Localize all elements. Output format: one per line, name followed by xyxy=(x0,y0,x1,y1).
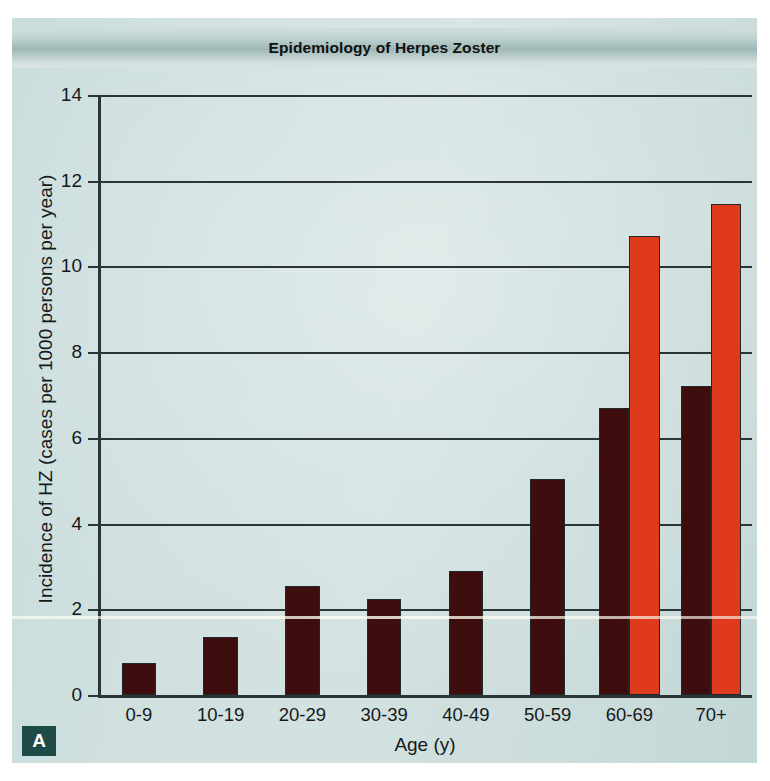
bar-70plus-red xyxy=(711,204,741,695)
bar-40-49-dark xyxy=(449,571,483,695)
y-tick-6 xyxy=(88,438,100,440)
bar-20-29-dark xyxy=(285,586,319,695)
y-tick-2 xyxy=(88,609,100,611)
figure-panel: Epidemiology of Herpes Zoster 0246810121… xyxy=(12,18,757,763)
y-tick-12 xyxy=(88,181,100,183)
bar-10-19-dark xyxy=(203,637,237,695)
y-tick-14 xyxy=(88,95,100,97)
x-axis-title: Age (y) xyxy=(98,734,752,756)
x-tick-label-20-29: 20-29 xyxy=(279,704,326,726)
x-tick-label-50-59: 50-59 xyxy=(524,704,571,726)
bar-60-69-red xyxy=(629,236,659,695)
x-axis-tick-labels: 0-910-1920-2930-3940-4950-5960-6970+ xyxy=(98,704,752,734)
x-tick-label-10-19: 10-19 xyxy=(197,704,244,726)
bar-0-9-dark xyxy=(122,663,156,695)
bar-60-69-dark xyxy=(599,408,629,695)
x-axis-line xyxy=(98,695,752,698)
bar-30-39-dark xyxy=(367,599,401,695)
y-axis-title: Incidence of HZ (cases per 1000 persons … xyxy=(35,89,57,689)
chart-title: Epidemiology of Herpes Zoster xyxy=(12,28,757,68)
x-tick-label-0-9: 0-9 xyxy=(126,704,153,726)
bar-50-59-dark xyxy=(530,479,564,695)
y-tick-0 xyxy=(88,695,100,697)
x-tick-label-70plus: 70+ xyxy=(695,704,726,726)
y-tick-8 xyxy=(88,352,100,354)
x-tick-label-40-49: 40-49 xyxy=(442,704,489,726)
x-tick-label-60-69: 60-69 xyxy=(606,704,653,726)
bar-series-container xyxy=(98,95,752,695)
y-tick-10 xyxy=(88,266,100,268)
bar-70plus-dark xyxy=(681,386,711,695)
panel-letter-badge: A xyxy=(22,726,56,756)
y-tick-4 xyxy=(88,524,100,526)
x-tick-label-30-39: 30-39 xyxy=(360,704,407,726)
